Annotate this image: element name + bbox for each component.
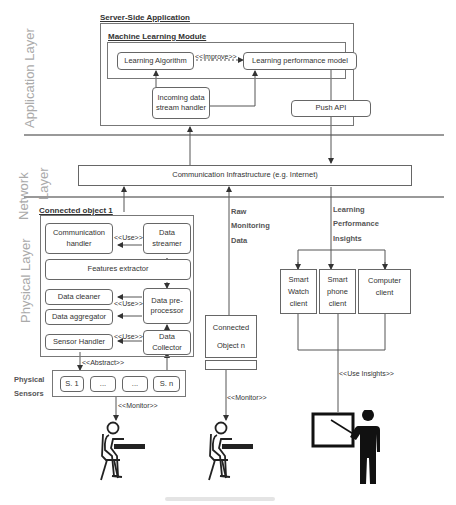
monitor-label-2: <<Monitor>> bbox=[227, 394, 267, 401]
smart-watch-client-box: Smart Watch client bbox=[280, 269, 317, 314]
communication-infrastructure-box: Communication Infrastructure (e.g. Inter… bbox=[78, 165, 412, 186]
watch-line3: client bbox=[290, 298, 308, 310]
data-streamer-line2: streamer bbox=[152, 239, 182, 249]
physical-sensors-line1: Physical bbox=[14, 373, 44, 387]
features-extractor-box: Features extractor bbox=[45, 259, 191, 280]
incoming-handler-line1: Incoming data bbox=[157, 93, 204, 103]
data-preprocessor-line1: Data pre- bbox=[151, 296, 182, 306]
data-aggregator-box: Data aggregator bbox=[45, 309, 113, 325]
data-collector-line2: Collector bbox=[152, 343, 182, 353]
data-cleaner-box: Data cleaner bbox=[45, 289, 113, 305]
computer-line2: client bbox=[376, 287, 394, 299]
data-preprocessor-line2: processor bbox=[151, 306, 184, 316]
raw-line2: Monitoring bbox=[231, 219, 270, 233]
sensor-sn: S. n bbox=[153, 376, 180, 392]
connected-object-1-title: Connected object 1 bbox=[39, 206, 113, 215]
object-n-line2: Object n bbox=[217, 337, 245, 355]
data-collector-box: Data Collector bbox=[143, 330, 191, 355]
raw-line1: Raw bbox=[231, 205, 270, 219]
comm-handler-line1: Communication bbox=[53, 228, 105, 238]
data-streamer-line1: Data bbox=[159, 228, 175, 238]
data-preprocessor-box: Data pre- processor bbox=[143, 288, 191, 324]
abstract-label: <<Abstract>> bbox=[82, 359, 124, 366]
push-api-box: Push API bbox=[291, 100, 371, 117]
use-label-3: <<Use>> bbox=[114, 333, 143, 340]
insights-line2: Performance bbox=[333, 217, 379, 231]
raw-line3: Data bbox=[231, 234, 270, 248]
insights-line1: Learning bbox=[333, 203, 379, 217]
student-icon bbox=[208, 420, 258, 490]
incoming-data-stream-handler-box: Incoming data stream handler bbox=[152, 87, 210, 119]
incoming-handler-line2: stream handler bbox=[156, 103, 206, 113]
physical-sensors-title: Physical Sensors bbox=[14, 373, 44, 400]
watch-line1: Smart bbox=[288, 274, 308, 286]
monitor-label-1: <<Monitor>> bbox=[118, 402, 158, 409]
figure-caption bbox=[165, 497, 275, 501]
sensor-s1: S. 1 bbox=[60, 376, 84, 392]
smart-phone-client-box: Smart phone client bbox=[319, 269, 356, 314]
physical-sensors-line2: Sensors bbox=[14, 387, 44, 401]
watch-line2: Watch bbox=[288, 286, 309, 298]
phone-line2: phone bbox=[327, 286, 348, 298]
use-label-2: <<Use>> bbox=[114, 300, 143, 307]
server-side-application-title: Server-Side Application bbox=[100, 13, 190, 22]
learning-performance-model-box: Learning performance model bbox=[243, 52, 357, 70]
use-label-1: <<Use>> bbox=[114, 234, 143, 241]
teacher-icon bbox=[310, 410, 390, 488]
object-n-line1: Connected bbox=[213, 319, 249, 337]
data-streamer-box: Data streamer bbox=[143, 223, 191, 254]
raw-monitoring-data-label: Raw Monitoring Data bbox=[231, 205, 270, 248]
communication-handler-box: Communication handler bbox=[45, 223, 113, 254]
data-collector-line1: Data bbox=[159, 332, 175, 342]
phone-line3: client bbox=[329, 298, 347, 310]
sensor-ellipsis-2: ... bbox=[122, 376, 148, 392]
comm-handler-line2: handler bbox=[66, 239, 91, 249]
sensor-ellipsis-1: ... bbox=[90, 376, 116, 392]
connected-object-n-footer bbox=[205, 360, 257, 370]
learning-algorithm-box: Learning Algorithm bbox=[117, 52, 194, 70]
improve-label: <<Improve>> bbox=[195, 53, 237, 60]
insights-line3: Insights bbox=[333, 232, 379, 246]
use-insights-label: <<Use Insights>> bbox=[339, 370, 394, 377]
ml-module-title: Machine Learning Module bbox=[108, 32, 206, 41]
connected-object-n-box: Connected Object n bbox=[205, 315, 257, 358]
sensor-handler-box: Sensor Handler bbox=[45, 334, 113, 350]
student-icon bbox=[100, 420, 150, 490]
computer-client-box: Computer client bbox=[358, 269, 411, 314]
computer-line1: Computer bbox=[368, 275, 401, 287]
learning-performance-insights-label: Learning Performance Insights bbox=[333, 203, 379, 246]
phone-line1: Smart bbox=[327, 274, 347, 286]
